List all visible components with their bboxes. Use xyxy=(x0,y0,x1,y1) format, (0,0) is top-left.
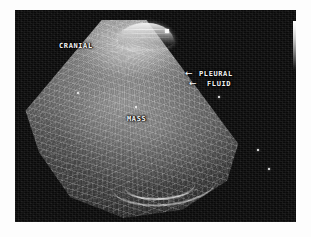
label-fluid: FLUID xyxy=(207,80,231,88)
page-canvas: CRANIAL MASS PLEURAL FLUID ← ← xyxy=(0,0,311,237)
bright-echo-dot xyxy=(135,106,137,108)
depth-marker-dot xyxy=(268,168,270,170)
apex-marker-dot xyxy=(165,29,169,33)
depth-marker-dot xyxy=(257,149,259,151)
pleural-fluid-arrow-icon: ← xyxy=(185,69,193,78)
label-pleural: PLEURAL xyxy=(199,70,233,78)
label-mass: MASS xyxy=(127,115,146,123)
label-cranial: CRANIAL xyxy=(59,42,93,50)
ultrasound-image: CRANIAL MASS PLEURAL FLUID ← ← xyxy=(15,10,296,222)
grayscale-wedge xyxy=(293,21,296,71)
pleural-fluid-arrow-icon: ← xyxy=(189,79,197,88)
depth-marker-dot xyxy=(218,96,220,98)
bright-echo-dot xyxy=(77,92,79,94)
